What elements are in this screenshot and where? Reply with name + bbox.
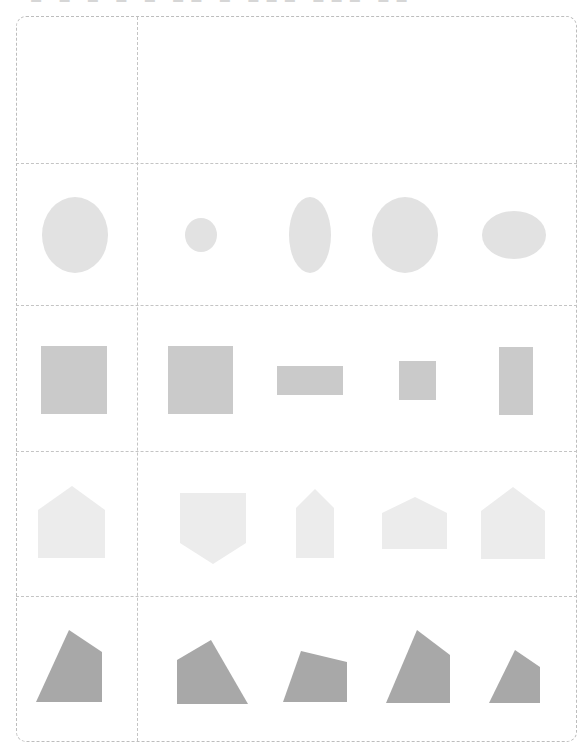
- option-quadrilateral[interactable]: [177, 640, 248, 704]
- reference-quadrilateral: [36, 630, 102, 702]
- reference-rectangle: [41, 346, 107, 414]
- option-rectangle[interactable]: [168, 346, 233, 414]
- quadrilateral-row: [36, 630, 540, 704]
- option-ellipse[interactable]: [185, 218, 217, 252]
- shapes-canvas: [0, 0, 588, 754]
- pentagon-row: [38, 486, 545, 564]
- rectangle-row: [41, 346, 533, 415]
- option-rectangle[interactable]: [277, 366, 343, 395]
- option-rectangle[interactable]: [399, 361, 436, 400]
- option-quadrilateral[interactable]: [386, 630, 450, 703]
- reference-ellipse: [42, 197, 108, 273]
- option-pentagon[interactable]: [180, 493, 246, 564]
- option-pentagon[interactable]: [382, 497, 447, 549]
- option-pentagon[interactable]: [481, 487, 545, 559]
- option-ellipse[interactable]: [482, 211, 546, 259]
- option-quadrilateral[interactable]: [283, 651, 347, 702]
- option-rectangle[interactable]: [499, 347, 533, 415]
- reference-pentagon: [38, 486, 105, 558]
- ellipse-row: [42, 197, 546, 273]
- option-quadrilateral[interactable]: [489, 650, 540, 703]
- option-pentagon[interactable]: [296, 489, 334, 558]
- option-ellipse[interactable]: [289, 197, 331, 273]
- option-ellipse[interactable]: [372, 197, 438, 273]
